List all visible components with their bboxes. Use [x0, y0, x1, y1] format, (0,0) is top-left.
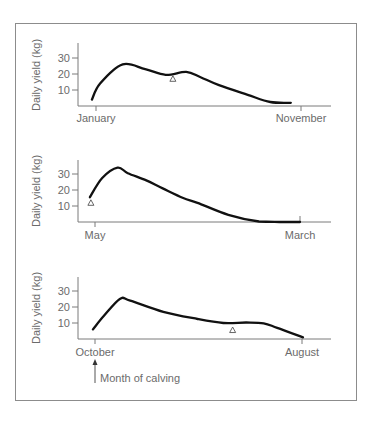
- x-tick-label-start: October: [75, 346, 114, 358]
- x-tick-label-end: August: [285, 346, 319, 358]
- x-tick-label-end: November: [276, 112, 327, 124]
- y-axis-label: Daily yield (kg): [30, 155, 42, 227]
- y-axis-label: Daily yield (kg): [30, 39, 42, 111]
- yield-curve: [93, 298, 303, 338]
- lactation-curves-figure: Daily yield (kg) 30 20 10 January Novemb…: [0, 0, 373, 426]
- triangle-marker: [170, 76, 176, 82]
- y-tick-label: 10: [58, 200, 70, 212]
- x-tick-label-start: May: [85, 229, 106, 241]
- x-tick-label-end: March: [285, 229, 316, 241]
- lactation-chart-october: Daily yield (kg) 30 20 10 October August…: [30, 272, 331, 384]
- y-tick-label: 10: [58, 84, 70, 96]
- y-tick-label: 20: [58, 301, 70, 313]
- x-tick-label-start: January: [76, 112, 116, 124]
- month-of-calving-annotation: Month of calving: [100, 372, 180, 384]
- y-tick-label: 30: [58, 52, 70, 64]
- y-tick-label: 20: [58, 184, 70, 196]
- yield-curve: [90, 168, 300, 222]
- y-tick-label: 30: [58, 168, 70, 180]
- y-axis-label: Daily yield (kg): [30, 272, 42, 344]
- arrow-up-icon: [93, 359, 98, 383]
- y-tick-label: 20: [58, 68, 70, 80]
- y-tick-label: 30: [58, 285, 70, 297]
- y-tick-label: 10: [58, 317, 70, 329]
- yield-curve: [92, 64, 291, 103]
- triangle-marker: [230, 327, 236, 333]
- lactation-chart-may: Daily yield (kg) 30 20 10 May March: [30, 155, 331, 241]
- triangle-marker: [88, 200, 94, 206]
- lactation-chart-january: Daily yield (kg) 30 20 10 January Novemb…: [30, 39, 331, 124]
